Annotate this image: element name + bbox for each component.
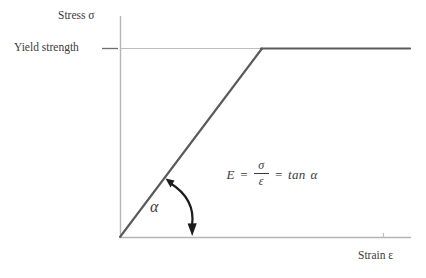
tangent-function: tan — [288, 168, 306, 181]
yield-strength-label: Yield strength — [14, 42, 79, 54]
y-axis-label: Stress σ — [58, 10, 95, 22]
x-axis-label: Strain ε — [358, 250, 393, 262]
equation-equals-second: = — [274, 168, 283, 181]
modulus-equation: E = σ ε = tan α — [224, 160, 320, 188]
stress-over-strain-fraction: σ ε — [254, 159, 269, 187]
tangent-argument: α — [311, 168, 318, 181]
equation-lhs: E — [227, 168, 235, 181]
equation-equals-first: = — [239, 168, 248, 181]
fraction-numerator: σ — [255, 159, 267, 172]
angle-alpha-label: α — [150, 199, 158, 215]
fraction-denominator: ε — [256, 175, 267, 188]
